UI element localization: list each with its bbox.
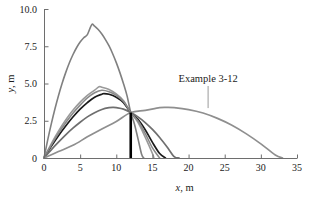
annotation-label: Example 3-12 xyxy=(178,73,237,84)
y-tick-label: 10.0 xyxy=(20,4,38,15)
projectile-trajectories-figure: 02.55.07.510.0 05101520253035 Example 3-… xyxy=(0,0,313,203)
x-tick-label: 25 xyxy=(220,162,230,173)
x-tick-label: 15 xyxy=(147,162,157,173)
x-tick-label: 0 xyxy=(42,162,47,173)
trajectory-curve xyxy=(44,87,154,158)
y-axis-title: y, m xyxy=(5,74,16,93)
x-tick-label: 5 xyxy=(78,162,83,173)
trajectory-curve xyxy=(44,107,179,158)
chart-canvas: 02.55.07.510.0 05101520253035 Example 3-… xyxy=(0,0,313,203)
x-tick-label: 35 xyxy=(292,162,302,173)
x-tick-label: 30 xyxy=(256,162,266,173)
trajectory-curve xyxy=(44,107,283,158)
x-axis-title: x, m xyxy=(174,182,193,193)
x-axis-ticks xyxy=(45,155,298,159)
y-tick-label: 2.5 xyxy=(25,115,38,126)
x-tick-label: 10 xyxy=(111,162,121,173)
y-tick-label: 7.5 xyxy=(25,41,38,52)
y-tick-label: 5.0 xyxy=(25,78,38,89)
axis-titles-group: x, m y, m xyxy=(5,74,194,193)
y-axis-tick-labels: 02.55.07.510.0 xyxy=(20,4,38,164)
y-tick-label: 0 xyxy=(32,153,37,164)
trajectory-curve-group xyxy=(44,24,283,158)
axes-group xyxy=(45,9,298,159)
example-annotation-group: Example 3-12 xyxy=(178,73,237,108)
x-tick-label: 20 xyxy=(184,162,194,173)
x-axis-tick-labels: 05101520253035 xyxy=(42,162,303,173)
